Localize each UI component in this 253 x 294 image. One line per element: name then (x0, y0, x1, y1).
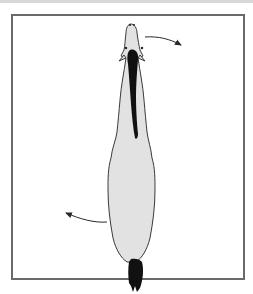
hindquarter-rotation-arrow (66, 213, 107, 222)
right-eye (141, 47, 143, 49)
right-nostril (133, 24, 135, 26)
left-nostril (129, 24, 131, 26)
horse-diagram (0, 0, 253, 294)
head-rotation-arrow (145, 37, 181, 45)
tail (128, 259, 143, 292)
left-eye (125, 47, 127, 49)
